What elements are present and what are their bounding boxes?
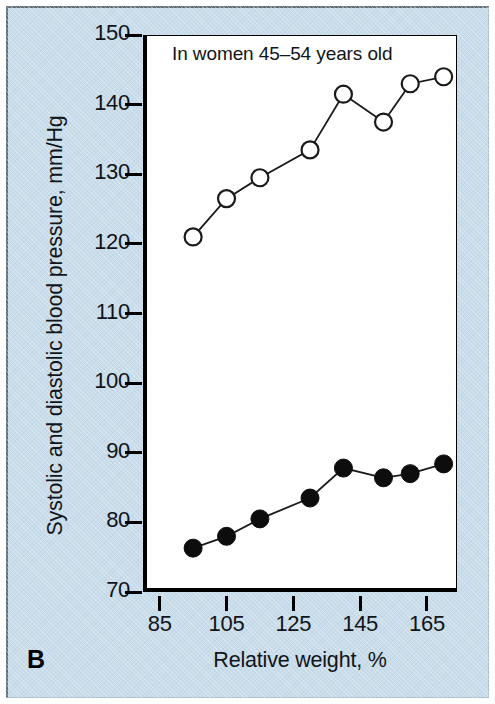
x-axis-tick-label: 145 (328, 611, 392, 637)
y-axis-tick-label: 140 (86, 90, 130, 116)
y-axis-tick-mark (125, 34, 142, 37)
x-axis-tick-label: 105 (195, 611, 259, 637)
x-axis-tick-labels: 85105125145165 (0, 611, 495, 643)
y-axis-tick-mark (125, 451, 142, 454)
x-axis-tick-mark (225, 596, 228, 611)
data-point-marker (375, 469, 393, 487)
data-point-marker (435, 455, 453, 473)
data-point-marker (375, 114, 392, 131)
y-axis-tick-mark (125, 312, 142, 315)
plot-canvas (143, 35, 457, 592)
data-point-marker (301, 489, 319, 507)
y-axis-tick-label: 150 (86, 20, 130, 46)
x-axis-tick-mark (292, 596, 295, 611)
x-axis-tick-mark (425, 596, 428, 611)
y-axis-tick-label: 100 (86, 368, 130, 394)
data-point-marker (251, 169, 268, 186)
y-axis-title: Systolic and diastolic blood pressure, m… (43, 46, 68, 606)
y-axis-tick-mark (125, 103, 142, 106)
y-axis-tick-label: 90 (86, 438, 130, 464)
data-point-marker (334, 459, 352, 477)
y-axis-tick-label: 80 (86, 507, 130, 533)
data-point-marker (401, 465, 419, 483)
y-axis-tick-label: 120 (86, 229, 130, 255)
y-axis-tick-mark (125, 173, 142, 176)
x-axis-tick-label: 85 (128, 611, 192, 637)
y-axis-tick-mark (125, 591, 142, 594)
x-axis-tick-label: 125 (261, 611, 325, 637)
data-point-marker (435, 68, 452, 85)
series-line (193, 77, 444, 237)
data-point-marker (251, 510, 269, 528)
x-axis-tick-mark (359, 596, 362, 611)
y-axis-tick-mark (125, 242, 142, 245)
data-point-marker (218, 527, 236, 545)
x-axis-tick-mark (158, 596, 161, 611)
x-axis-tick-label: 165 (395, 611, 459, 637)
y-axis-tick-mark (125, 521, 142, 524)
y-axis-tick-label: 130 (86, 159, 130, 185)
x-axis-title: Relative weight, % (143, 648, 457, 673)
panel-letter-label: B (27, 645, 45, 674)
data-point-marker (185, 228, 202, 245)
data-point-marker (218, 190, 235, 207)
data-point-marker (184, 539, 202, 557)
figure-panel-b: 708090100110120130140150 85105125145165 … (0, 0, 495, 704)
y-axis-tick-label: 110 (86, 299, 130, 325)
data-point-marker (302, 141, 319, 158)
chart-annotation: In women 45–54 years old (172, 43, 392, 65)
y-axis-tick-mark (125, 382, 142, 385)
data-point-marker (335, 86, 352, 103)
data-point-marker (402, 75, 419, 92)
